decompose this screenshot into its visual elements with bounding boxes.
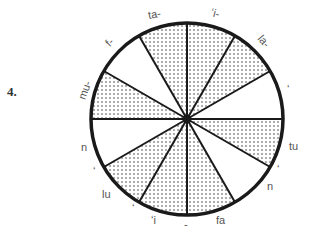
syllable-label-9: ʻi: [151, 214, 156, 226]
syllable-label-0: ta-: [147, 7, 162, 21]
syllable-label-3: ʻ: [287, 83, 289, 95]
wheel-hub: [183, 115, 192, 124]
syllable-label-11: lu: [102, 188, 111, 200]
syllable-label-8: -: [184, 218, 188, 230]
syllable-label-6: n: [267, 180, 273, 192]
syllable-label-7: fa: [216, 214, 225, 226]
syllable-label-10: ʻ: [132, 202, 134, 214]
syllable-label-5: ʻ: [277, 163, 279, 175]
syllable-label-4: tu: [289, 140, 298, 152]
syllable-label-13: n: [81, 141, 87, 153]
syllable-label-12: ʻ: [93, 165, 95, 177]
exercise-figure: 4. ta-ʻi-la-ʻtuʻnfa-ʻiʻluʻnmu-f-: [0, 0, 311, 239]
